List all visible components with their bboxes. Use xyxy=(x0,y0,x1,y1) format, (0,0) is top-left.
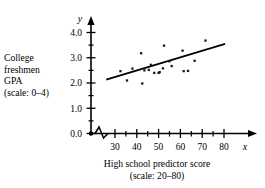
x-axis-variable-label: x xyxy=(242,141,248,152)
y-tick-label-group: 0.01.02.03.04.0 xyxy=(70,28,82,139)
x-tick-label-group: 304050607080 xyxy=(110,142,229,152)
x-axis-break-zigzag xyxy=(95,127,108,138)
scatter-point xyxy=(163,44,165,46)
y-tick-label: 3.0 xyxy=(70,53,82,63)
scatter-point xyxy=(168,60,170,62)
scatter-point xyxy=(183,70,185,72)
y-tick-label: 4.0 xyxy=(70,28,82,38)
scatter-point xyxy=(119,70,121,72)
y-tick-label: 0.0 xyxy=(70,129,82,139)
scatter-point xyxy=(162,67,164,69)
y-tick-label: 2.0 xyxy=(70,78,82,88)
scatter-plot-figure: College freshmen GPA (scale: 0–4) High s… xyxy=(0,0,265,188)
y-axis-arrowhead xyxy=(87,16,94,25)
scatter-point xyxy=(159,71,161,73)
scatter-point xyxy=(181,50,183,52)
plot-canvas: 0.01.02.03.04.0 304050607080 x y xyxy=(0,0,265,188)
x-tick-label: 80 xyxy=(219,142,229,152)
scatter-point xyxy=(126,79,128,81)
scatter-point xyxy=(143,69,145,71)
scatter-point xyxy=(193,60,195,62)
x-tick-label: 30 xyxy=(110,142,120,152)
scatter-point xyxy=(131,67,133,69)
scatter-point xyxy=(204,39,206,41)
x-tick-label: 70 xyxy=(197,142,207,152)
regression-trend-line xyxy=(106,44,225,80)
y-axis-variable-label: y xyxy=(77,13,83,24)
y-tick-label: 1.0 xyxy=(70,104,82,114)
scatter-point xyxy=(141,82,143,84)
x-tick-label: 50 xyxy=(154,142,164,152)
scatter-point xyxy=(140,52,142,54)
x-tick-label: 60 xyxy=(176,142,186,152)
scatter-point xyxy=(150,64,152,66)
scatter-point xyxy=(148,69,150,71)
scatter-point xyxy=(153,72,155,74)
x-axis-arrowhead xyxy=(248,130,257,137)
scatter-point xyxy=(171,65,173,67)
x-tick-label: 40 xyxy=(132,142,142,152)
scatter-point xyxy=(187,70,189,72)
